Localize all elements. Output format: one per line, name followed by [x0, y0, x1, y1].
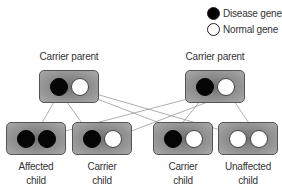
- disease-gene-icon: [207, 7, 220, 20]
- child-label-affected: Affected child: [4, 160, 68, 188]
- child-carrier-2: [153, 122, 213, 155]
- child-label-line1: Carrier: [151, 160, 215, 174]
- disease-gene-icon: [83, 130, 101, 148]
- child-label-carrier-2: Carrier child: [151, 160, 215, 188]
- child-carrier-1: [72, 122, 132, 155]
- normal-gene-icon: [71, 78, 89, 96]
- normal-gene-icon: [250, 130, 268, 148]
- normal-gene-icon: [207, 23, 220, 36]
- parent-left: [39, 70, 99, 103]
- child-label-line2: child: [216, 174, 280, 188]
- parent-label-right: Carrier parent: [175, 51, 255, 62]
- parent-right: [185, 70, 245, 103]
- child-unaffected: [218, 122, 278, 155]
- child-label-line2: child: [151, 174, 215, 188]
- legend-item-disease: Disease gene: [207, 5, 282, 21]
- disease-gene-icon: [196, 78, 214, 96]
- legend-label-disease: Disease gene: [223, 8, 282, 19]
- child-label-line2: child: [4, 174, 68, 188]
- disease-gene-icon: [50, 78, 68, 96]
- legend-label-normal: Normal gene: [223, 24, 278, 35]
- child-label-line1: Affected: [4, 160, 68, 174]
- child-label-line1: Unaffected: [216, 160, 280, 174]
- child-label-line1: Carrier: [70, 160, 134, 174]
- legend-item-normal: Normal gene: [207, 21, 278, 37]
- normal-gene-icon: [185, 130, 203, 148]
- child-label-unaffected: Unaffected child: [216, 160, 280, 188]
- child-affected: [6, 122, 66, 155]
- child-label-line2: child: [70, 174, 134, 188]
- child-label-carrier-1: Carrier child: [70, 160, 134, 188]
- normal-gene-icon: [229, 130, 247, 148]
- disease-gene-icon: [164, 130, 182, 148]
- normal-gene-icon: [104, 130, 122, 148]
- disease-gene-icon: [38, 130, 56, 148]
- normal-gene-icon: [217, 78, 235, 96]
- disease-gene-icon: [17, 130, 35, 148]
- parent-label-left: Carrier parent: [29, 51, 109, 62]
